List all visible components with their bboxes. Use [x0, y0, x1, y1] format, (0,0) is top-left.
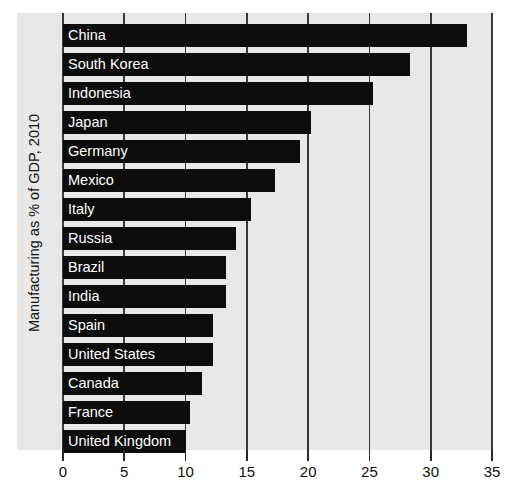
bar[interactable] [63, 256, 226, 279]
bar[interactable] [63, 372, 202, 395]
bar-row[interactable]: Brazil [63, 256, 492, 279]
bar-row[interactable]: India [63, 285, 492, 308]
x-tick-label: 0 [43, 463, 83, 480]
bar[interactable] [63, 82, 373, 105]
bar-row[interactable]: Russia [63, 227, 492, 250]
plot-area: ChinaSouth KoreaIndonesiaJapanGermanyMex… [63, 13, 492, 450]
x-tick-mark [491, 450, 493, 461]
x-tick-mark [123, 450, 125, 461]
x-tick-label: 5 [104, 463, 144, 480]
bar-row[interactable]: China [63, 24, 492, 47]
bar-row[interactable]: Spain [63, 314, 492, 337]
bar[interactable] [63, 140, 300, 163]
bar-row[interactable]: Canada [63, 372, 492, 395]
bar[interactable] [63, 111, 311, 134]
bar-row[interactable]: France [63, 401, 492, 424]
bar-chart-figure: Manufacturing as % of GDP, 2010 ChinaSou… [0, 0, 514, 492]
x-tick-mark [369, 450, 371, 461]
x-tick-mark [307, 450, 309, 461]
bar-row[interactable]: Japan [63, 111, 492, 134]
x-tick-mark [62, 450, 64, 461]
bar[interactable] [63, 285, 226, 308]
bar[interactable] [63, 343, 213, 366]
bar-row[interactable]: Italy [63, 198, 492, 221]
bar-row[interactable]: United States [63, 343, 492, 366]
bar[interactable] [63, 401, 190, 424]
x-tick-mark [430, 450, 432, 461]
bar[interactable] [63, 24, 467, 47]
x-tick-mark [185, 450, 187, 461]
x-tick-label: 10 [166, 463, 206, 480]
bar[interactable] [63, 198, 251, 221]
bars-container: ChinaSouth KoreaIndonesiaJapanGermanyMex… [63, 13, 492, 450]
bar[interactable] [63, 53, 410, 76]
x-tick-label: 25 [349, 463, 389, 480]
bar-row[interactable]: Germany [63, 140, 492, 163]
bar-row[interactable]: South Korea [63, 53, 492, 76]
bar-row[interactable]: Indonesia [63, 82, 492, 105]
x-tick-label: 15 [227, 463, 267, 480]
x-tick-label: 35 [472, 463, 512, 480]
bar-row[interactable]: Mexico [63, 169, 492, 192]
bar[interactable] [63, 314, 213, 337]
x-tick-label: 20 [288, 463, 328, 480]
bar[interactable] [63, 169, 275, 192]
x-tick-mark [246, 450, 248, 461]
x-axis: 05101520253035 [63, 450, 492, 490]
x-tick-label: 30 [411, 463, 451, 480]
y-axis-title: Manufacturing as % of GDP, 2010 [26, 53, 42, 393]
bar[interactable] [63, 227, 236, 250]
